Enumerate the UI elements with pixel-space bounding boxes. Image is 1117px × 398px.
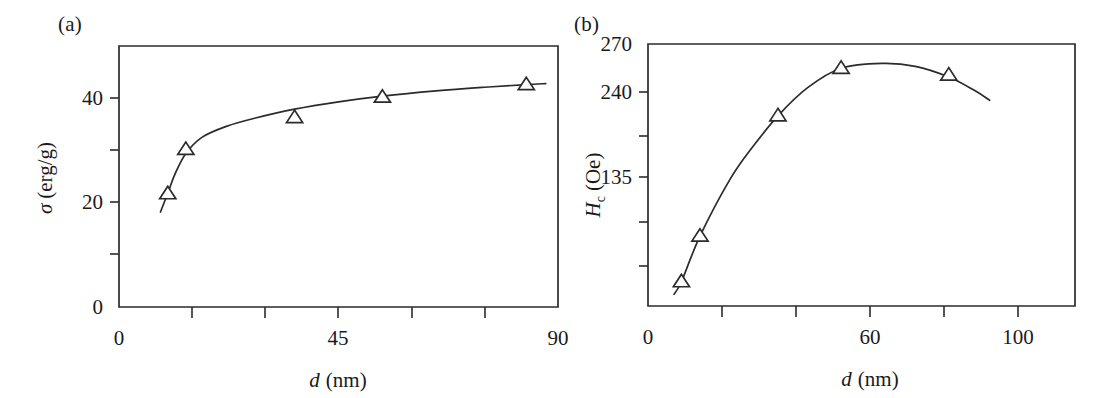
panel-b-ylabel-unit: (Oe) [581,153,605,191]
panel-a-ytick-0: 0 [93,295,104,319]
panel-b-ytick-135: 135 [601,165,633,189]
panel-b-ylabel-subscript: c [593,196,608,202]
figure-root: (a) 40 20 0 0 [0,0,1117,398]
panel-b-ytick-270: 270 [601,32,633,56]
panel-a-x-axis-title: d(nm) [309,368,366,392]
panel-b-xtick-0: 0 [643,325,654,349]
panel-b-y-axis-title: Hc(Oe) [581,153,608,219]
data-point-marker [518,77,534,89]
panel-b-ytick-240: 240 [601,80,633,104]
panel-a-ylabel-unit: (erg/g) [33,142,57,199]
panel-b-xlabel-symbol: d [841,367,852,391]
panel-b-xlabel-unit: (nm) [858,367,899,391]
panel-b-axes-frame [648,44,1075,306]
data-point-marker [160,186,176,198]
panel-a-ytick-40: 40 [82,86,103,110]
svg-text:Hc(Oe): Hc(Oe) [581,153,608,219]
data-point-marker [673,274,689,286]
chart-panel-b: (b) 270 240 135 [570,0,1117,398]
panel-b-data-markers [673,61,956,287]
panel-a-xlabel-unit: (nm) [326,368,367,392]
panel-b-xtick-60: 60 [860,325,881,349]
panel-a-data-markers [160,77,535,199]
panel-a-fit-curve [160,84,545,212]
panel-a-xlabel-symbol: d [309,368,320,392]
panel-a-xtick-45: 45 [328,326,349,350]
panel-a-plot: 40 20 0 0 45 90 σ(erg/g) d(nm) [0,0,570,398]
panel-a-y-ticks [110,98,119,254]
panel-a-ylabel-symbol: σ [33,202,57,214]
data-point-marker [287,110,303,122]
panel-b-fit-curve [674,63,990,294]
panel-b-xtick-100: 100 [1002,325,1034,349]
panel-a-y-axis-title: σ(erg/g) [33,142,57,214]
data-point-marker [178,142,194,154]
panel-a-xtick-0: 0 [114,326,125,350]
panel-a-xtick-90: 90 [548,326,569,350]
panel-b-x-axis-title: d(nm) [841,367,898,391]
panel-b-y-ticks [639,92,648,266]
data-point-marker [692,229,708,241]
panel-b-x-ticks [722,306,1018,317]
panel-a-x-ticks [192,307,485,318]
chart-panel-a: (a) 40 20 0 0 [0,0,570,398]
panel-b-plot: 270 240 135 0 60 100 Hc(Oe) d(nm) [570,0,1117,398]
panel-a-ytick-20: 20 [82,190,103,214]
svg-text:σ(erg/g): σ(erg/g) [33,142,57,214]
panel-a-axes-frame [119,46,558,307]
